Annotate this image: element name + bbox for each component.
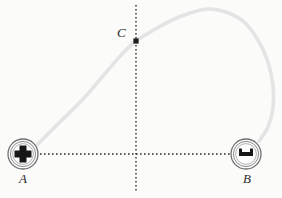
ball-b xyxy=(231,139,261,169)
diagram-graphics xyxy=(0,0,282,198)
ball-a xyxy=(8,139,38,169)
label-b: B xyxy=(243,172,251,185)
label-c: C xyxy=(117,26,126,39)
point-c-marker xyxy=(133,38,138,43)
label-a: A xyxy=(19,172,27,185)
diagram-canvas: A B C xyxy=(0,0,282,198)
trajectory-curve-highlight xyxy=(36,9,274,146)
